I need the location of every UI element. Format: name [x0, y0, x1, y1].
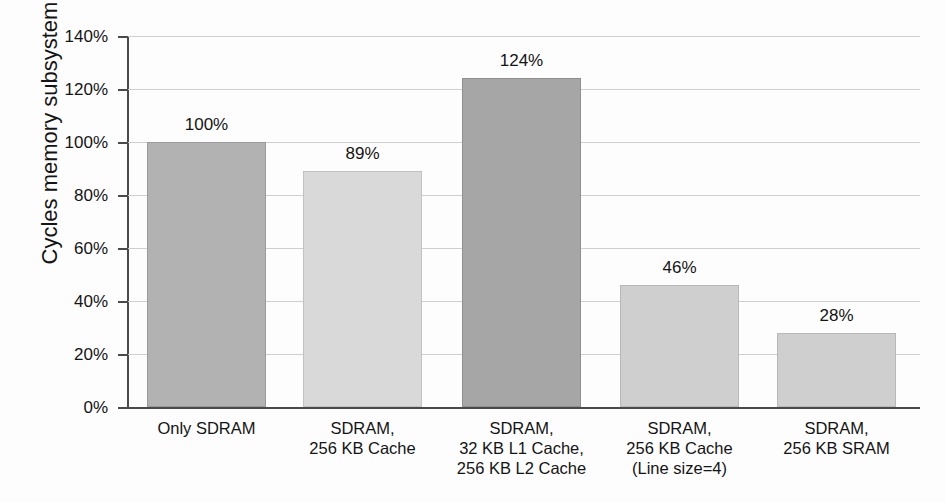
y-tick-label: 0% [0, 398, 108, 418]
y-tick-label: 80% [0, 186, 108, 206]
bar [462, 78, 581, 407]
x-axis-label-line: 256 KB SRAM [742, 438, 932, 458]
y-tick-label: 40% [0, 292, 108, 312]
x-axis-label-line: (Line size=4) [585, 458, 775, 478]
bar [303, 171, 422, 407]
bar-value-label: 100% [127, 115, 287, 135]
bar-value-label: 124% [442, 51, 602, 71]
bar-value-label: 46% [600, 258, 760, 278]
gridline-140 [128, 36, 920, 37]
y-tick-label: 20% [0, 345, 108, 365]
x-axis-label-line: SDRAM, [742, 418, 932, 438]
y-tick-label: 60% [0, 239, 108, 259]
bar [777, 333, 896, 407]
x-axis-label: SDRAM,256 KB SRAM [742, 418, 932, 458]
y-tick-label: 140% [0, 27, 108, 47]
bar [620, 285, 739, 407]
plot-area: 100%89%124%46%28% [128, 36, 920, 407]
bar [147, 142, 266, 407]
gridline-0 [128, 407, 920, 409]
bar-value-label: 28% [757, 306, 917, 326]
bar-chart: Cycles memory subsystem 140%120%100%80%6… [0, 0, 946, 502]
y-tick-label: 120% [0, 80, 108, 100]
y-tick-label: 100% [0, 133, 108, 153]
bar-value-label: 89% [283, 144, 443, 164]
